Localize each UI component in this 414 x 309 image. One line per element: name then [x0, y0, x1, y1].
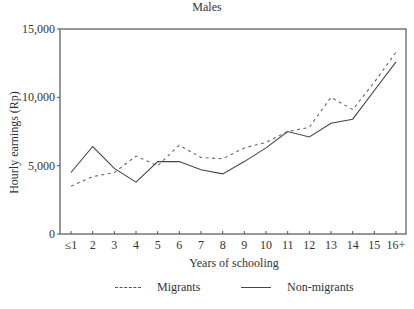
legend-item-non-migrants: Non-migrants [241, 280, 354, 295]
line-chart: 05,00010,00015,000 ≤12345678910111213141… [0, 0, 414, 270]
svg-text:2: 2 [90, 238, 96, 252]
solid-line-swatch-icon [241, 287, 271, 288]
svg-text:8: 8 [220, 238, 226, 252]
svg-text:0: 0 [49, 227, 55, 241]
svg-text:9: 9 [241, 238, 247, 252]
svg-text:10: 10 [260, 238, 272, 252]
svg-text:3: 3 [111, 238, 117, 252]
svg-text:10,000: 10,000 [22, 90, 55, 104]
series-line-migrants [71, 52, 396, 186]
svg-text:5,000: 5,000 [28, 159, 55, 173]
series-line-non-migrants [71, 62, 396, 182]
series-lines [71, 52, 396, 186]
svg-text:6: 6 [176, 238, 182, 252]
legend-label-migrants: Migrants [157, 280, 200, 295]
svg-text:5: 5 [155, 238, 161, 252]
plot-frame [60, 29, 406, 234]
svg-text:15: 15 [368, 238, 380, 252]
svg-text:15,000: 15,000 [22, 22, 55, 36]
dashed-line-swatch-icon [115, 287, 141, 288]
svg-text:11: 11 [282, 238, 294, 252]
svg-text:7: 7 [198, 238, 204, 252]
svg-text:13: 13 [325, 238, 337, 252]
svg-text:≤1: ≤1 [65, 238, 78, 252]
svg-text:12: 12 [303, 238, 315, 252]
legend-label-non-migrants: Non-migrants [287, 280, 354, 295]
svg-text:16+: 16+ [387, 238, 406, 252]
svg-text:14: 14 [347, 238, 359, 252]
legend-item-migrants: Migrants [115, 280, 200, 295]
svg-text:4: 4 [133, 238, 139, 252]
y-axis-ticks: 05,00010,00015,000 [22, 22, 60, 241]
